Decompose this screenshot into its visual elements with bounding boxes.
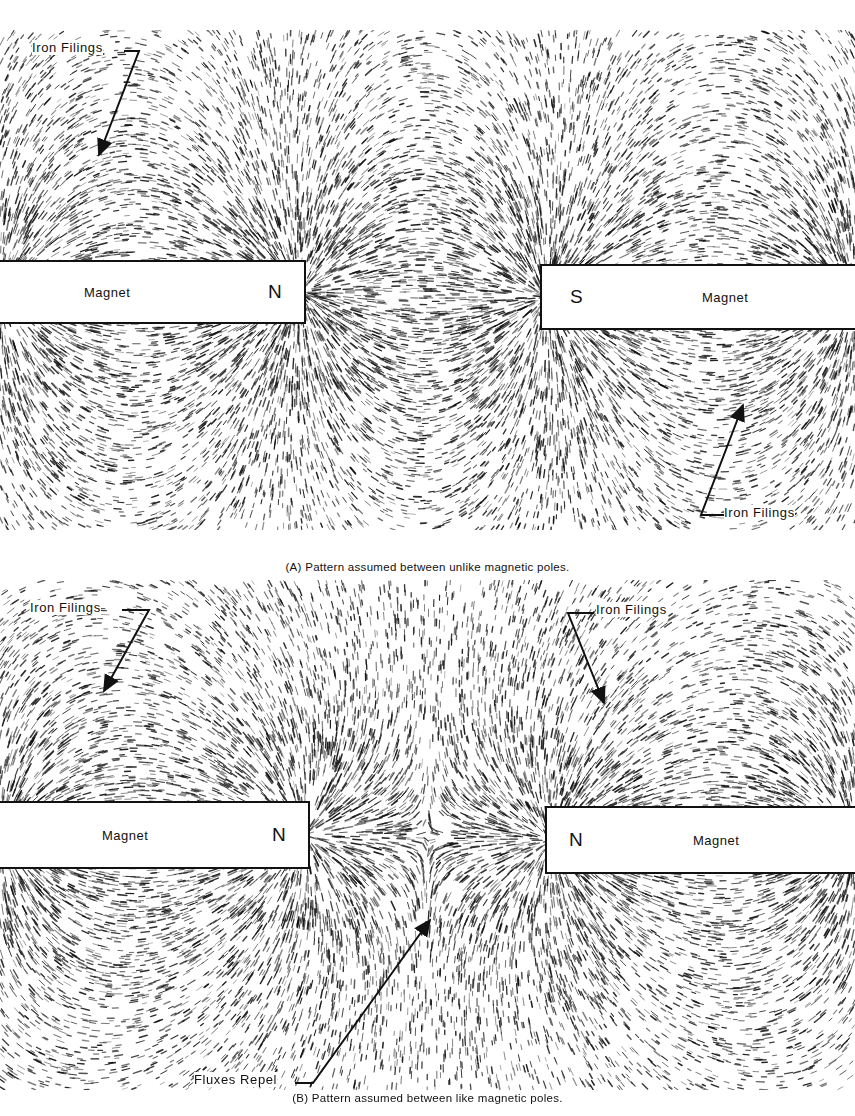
left-magnet-bar: Magnet N [0, 801, 310, 869]
callout-fluxes-repel: Fluxes Repel [194, 1072, 277, 1087]
magnet-label: Magnet [693, 833, 739, 848]
caption-a: (A) Pattern assumed between unlike magne… [0, 561, 855, 573]
pole-label-north: N [569, 829, 583, 851]
callout-iron-filings-top-left: Iron Filings [30, 600, 101, 615]
panel-like-poles: Magnet N N Magnet Iron Filings Iron Fili… [0, 580, 855, 1090]
callout-iron-filings-top-center-right: Iron Filings [596, 602, 667, 617]
magnet-label: Magnet [702, 290, 748, 305]
caption-b: (B) Pattern assumed between like magneti… [0, 1092, 855, 1104]
left-magnet-bar: Magnet N [0, 260, 306, 324]
pole-label-north: N [272, 824, 286, 846]
callout-iron-filings-top-left: Iron Filings [32, 40, 103, 55]
right-magnet-bar: S Magnet [540, 264, 855, 330]
magnet-label: Magnet [84, 285, 130, 300]
callout-iron-filings-bottom-right: Iron Filings [724, 505, 795, 520]
right-magnet-bar: N Magnet [545, 806, 855, 874]
pole-label-south: S [570, 286, 583, 308]
pole-label-north: N [268, 281, 282, 303]
magnet-label: Magnet [102, 828, 148, 843]
panel-unlike-poles: Magnet N S Magnet Iron Filings Iron Fili… [0, 30, 855, 530]
